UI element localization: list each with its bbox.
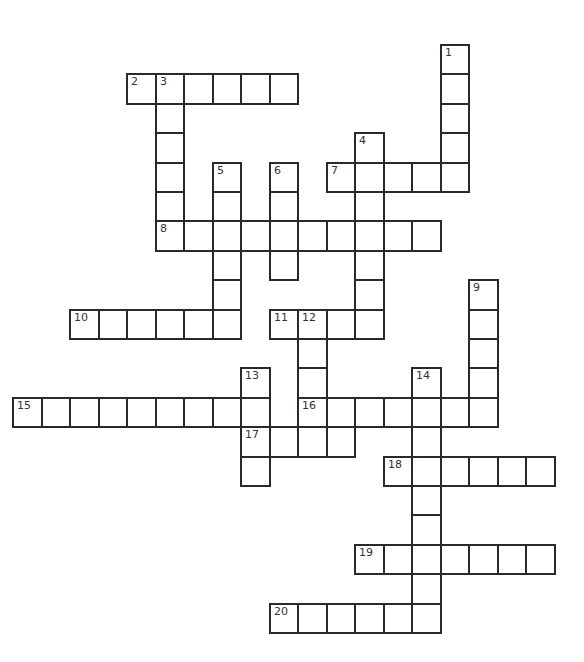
crossword-cell[interactable]: 7 — [326, 162, 356, 193]
crossword-cell[interactable] — [126, 309, 157, 340]
crossword-cell[interactable] — [354, 250, 385, 281]
crossword-cell[interactable] — [468, 367, 499, 399]
crossword-cell[interactable] — [212, 191, 242, 222]
crossword-cell[interactable] — [440, 103, 470, 134]
crossword-cell[interactable] — [269, 426, 299, 458]
crossword-cell[interactable] — [525, 456, 556, 487]
crossword-cell[interactable] — [212, 309, 242, 340]
crossword-cell[interactable] — [383, 162, 413, 193]
crossword-cell[interactable] — [155, 132, 185, 164]
crossword-cell[interactable] — [354, 220, 385, 252]
crossword-cell[interactable] — [212, 220, 242, 252]
crossword-cell[interactable] — [354, 603, 385, 634]
crossword-cell[interactable] — [297, 603, 328, 634]
crossword-cell[interactable] — [468, 397, 499, 428]
crossword-cell[interactable] — [525, 544, 556, 575]
crossword-cell[interactable] — [183, 309, 214, 340]
crossword-cell[interactable] — [212, 279, 242, 311]
crossword-cell[interactable] — [468, 544, 499, 575]
crossword-cell[interactable]: 19 — [354, 544, 385, 575]
crossword-cell[interactable] — [326, 426, 356, 458]
crossword-cell[interactable] — [297, 338, 328, 369]
crossword-cell[interactable]: 20 — [269, 603, 299, 634]
crossword-cell[interactable] — [240, 73, 271, 105]
crossword-cell[interactable] — [326, 220, 356, 252]
crossword-cell[interactable] — [98, 397, 128, 428]
crossword-cell[interactable]: 13 — [240, 367, 271, 399]
crossword-cell[interactable]: 18 — [383, 456, 413, 487]
crossword-cell[interactable]: 16 — [297, 397, 328, 428]
crossword-cell[interactable] — [411, 162, 442, 193]
crossword-cell[interactable] — [326, 397, 356, 428]
crossword-cell[interactable] — [354, 309, 385, 340]
crossword-cell[interactable] — [411, 485, 442, 516]
crossword-cell[interactable]: 12 — [297, 309, 328, 340]
crossword-cell[interactable] — [411, 514, 442, 546]
crossword-cell[interactable]: 14 — [411, 367, 442, 399]
crossword-cell[interactable] — [183, 397, 214, 428]
crossword-cell[interactable] — [155, 162, 185, 193]
crossword-cell[interactable] — [383, 220, 413, 252]
crossword-cell[interactable] — [468, 456, 499, 487]
crossword-cell[interactable] — [326, 309, 356, 340]
crossword-cell[interactable] — [155, 103, 185, 134]
crossword-cell[interactable] — [155, 309, 185, 340]
crossword-cell[interactable] — [183, 73, 214, 105]
crossword-cell[interactable] — [183, 220, 214, 252]
crossword-cell[interactable] — [240, 397, 271, 428]
crossword-cell[interactable] — [269, 73, 299, 105]
crossword-cell[interactable] — [411, 426, 442, 458]
crossword-cell[interactable]: 17 — [240, 426, 271, 458]
crossword-cell[interactable] — [383, 397, 413, 428]
crossword-cell[interactable] — [212, 250, 242, 281]
crossword-cell[interactable] — [126, 397, 157, 428]
crossword-cell[interactable]: 3 — [155, 73, 185, 105]
crossword-cell[interactable] — [297, 220, 328, 252]
crossword-cell[interactable]: 11 — [269, 309, 299, 340]
crossword-cell[interactable] — [269, 220, 299, 252]
crossword-cell[interactable] — [297, 426, 328, 458]
crossword-cell[interactable] — [212, 397, 242, 428]
crossword-cell[interactable]: 2 — [126, 73, 157, 105]
crossword-cell[interactable] — [98, 309, 128, 340]
crossword-cell[interactable] — [326, 603, 356, 634]
crossword-cell[interactable] — [440, 162, 470, 193]
crossword-cell[interactable] — [497, 456, 527, 487]
crossword-cell[interactable] — [440, 397, 470, 428]
crossword-cell[interactable]: 1 — [440, 44, 470, 75]
crossword-cell[interactable]: 9 — [468, 279, 499, 311]
crossword-cell[interactable] — [411, 220, 442, 252]
crossword-cell[interactable] — [240, 220, 271, 252]
crossword-cell[interactable]: 5 — [212, 162, 242, 193]
crossword-cell[interactable] — [440, 456, 470, 487]
crossword-cell[interactable] — [383, 603, 413, 634]
crossword-cell[interactable] — [383, 544, 413, 575]
crossword-cell[interactable] — [354, 397, 385, 428]
crossword-cell[interactable] — [212, 73, 242, 105]
crossword-cell[interactable]: 15 — [12, 397, 43, 428]
crossword-cell[interactable] — [440, 544, 470, 575]
crossword-cell[interactable] — [41, 397, 71, 428]
crossword-cell[interactable] — [269, 191, 299, 222]
crossword-cell[interactable] — [354, 279, 385, 311]
crossword-cell[interactable] — [411, 397, 442, 428]
crossword-cell[interactable] — [440, 73, 470, 105]
crossword-cell[interactable] — [240, 456, 271, 487]
crossword-cell[interactable] — [468, 338, 499, 369]
crossword-cell[interactable] — [69, 397, 100, 428]
crossword-cell[interactable] — [411, 456, 442, 487]
crossword-cell[interactable] — [155, 397, 185, 428]
crossword-cell[interactable]: 10 — [69, 309, 100, 340]
crossword-cell[interactable] — [411, 603, 442, 634]
crossword-cell[interactable] — [411, 544, 442, 575]
crossword-cell[interactable] — [155, 191, 185, 222]
crossword-cell[interactable] — [354, 162, 385, 193]
crossword-cell[interactable] — [468, 309, 499, 340]
crossword-cell[interactable] — [269, 250, 299, 281]
crossword-cell[interactable] — [497, 544, 527, 575]
crossword-cell[interactable] — [440, 132, 470, 164]
crossword-cell[interactable]: 6 — [269, 162, 299, 193]
crossword-cell[interactable] — [354, 191, 385, 222]
crossword-cell[interactable]: 8 — [155, 220, 185, 252]
crossword-cell[interactable] — [411, 573, 442, 605]
